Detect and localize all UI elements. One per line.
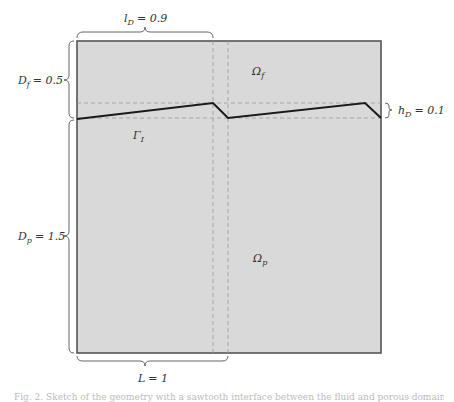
label-lD: lD= 0.9 (124, 12, 167, 27)
brace-L (77, 356, 228, 366)
brace-lD (77, 27, 213, 38)
brace-Dp (64, 120, 74, 353)
label-Df: Df= 0.5 (17, 74, 63, 89)
label-Dp: Dp= 1.5 (17, 230, 65, 245)
label-L: L= 1 (137, 372, 168, 385)
figure-caption: Fig. 2. Sketch of the geometry with a sa… (14, 392, 444, 402)
domain-rectangle (77, 41, 381, 353)
label-hD: hD= 0.1 (398, 104, 445, 119)
brace-hD (385, 103, 392, 118)
brace-Df (64, 41, 74, 118)
